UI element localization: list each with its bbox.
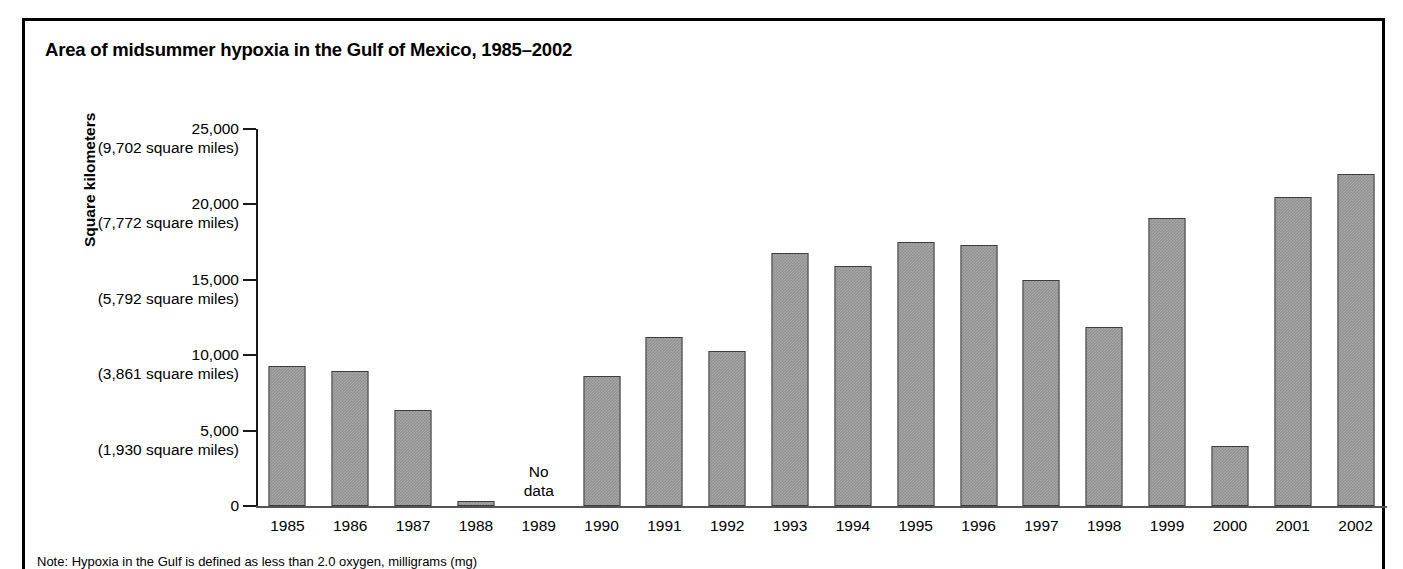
bar-slot bbox=[570, 129, 633, 506]
x-tick-label-2000: 2000 bbox=[1199, 517, 1262, 535]
y-tick-label-km: 15,000 bbox=[98, 270, 239, 289]
x-axis-line bbox=[256, 506, 1387, 508]
bar-slot bbox=[1199, 129, 1262, 506]
bar-1999[interactable] bbox=[1149, 218, 1186, 506]
y-tick-mark bbox=[243, 203, 256, 205]
x-tick-label-1992: 1992 bbox=[696, 517, 759, 535]
y-tick-label: 0 bbox=[230, 496, 239, 515]
bar-1992[interactable] bbox=[709, 351, 746, 506]
bar-1997[interactable] bbox=[1023, 280, 1060, 506]
x-tick-label-1995: 1995 bbox=[884, 517, 947, 535]
x-tick-label-1988: 1988 bbox=[445, 517, 508, 535]
bar-1987[interactable] bbox=[395, 410, 432, 506]
y-tick-label: 10,000(3,861 square miles) bbox=[98, 345, 239, 383]
x-tick-label-1999: 1999 bbox=[1136, 517, 1199, 535]
x-tick-label-2001: 2001 bbox=[1261, 517, 1324, 535]
y-tick-label: 20,000(7,772 square miles) bbox=[98, 194, 239, 232]
y-axis-title: Square kilometers bbox=[81, 113, 99, 247]
y-tick-label-miles: (1,930 square miles) bbox=[98, 440, 239, 459]
bar-2001[interactable] bbox=[1274, 197, 1311, 506]
bar-1995[interactable] bbox=[897, 242, 934, 506]
x-axis-labels: 1985198619871988198919901991199219931994… bbox=[256, 517, 1387, 539]
x-tick-label-1990: 1990 bbox=[570, 517, 633, 535]
x-tick-label-1985: 1985 bbox=[256, 517, 319, 535]
x-tick-label-1997: 1997 bbox=[1010, 517, 1073, 535]
y-tick-label: 5,000(1,930 square miles) bbox=[98, 421, 239, 459]
bar-slot bbox=[696, 129, 759, 506]
x-tick-label-1989: 1989 bbox=[507, 517, 570, 535]
y-tick-label-km: 10,000 bbox=[98, 345, 239, 364]
plot-area: 25,000(9,702 square miles)20,000(7,772 s… bbox=[256, 129, 1387, 506]
no-data-line2: data bbox=[524, 481, 554, 500]
bar-1990[interactable] bbox=[583, 376, 620, 506]
x-tick-label-1993: 1993 bbox=[759, 517, 822, 535]
y-tick-label-miles: (5,792 square miles) bbox=[98, 289, 239, 308]
bar-slot bbox=[822, 129, 885, 506]
y-tick-mark bbox=[243, 279, 256, 281]
bar-1985[interactable] bbox=[269, 366, 306, 506]
bar-slot bbox=[256, 129, 319, 506]
y-tick-label-km: 5,000 bbox=[98, 421, 239, 440]
y-tick-label: 15,000(5,792 square miles) bbox=[98, 270, 239, 308]
bar-slot bbox=[1073, 129, 1136, 506]
y-tick-label-km: 25,000 bbox=[98, 119, 239, 138]
bar-1994[interactable] bbox=[834, 266, 871, 506]
y-tick-label: 25,000(9,702 square miles) bbox=[98, 119, 239, 157]
bar-slot bbox=[884, 129, 947, 506]
no-data-annotation: Nodata bbox=[524, 462, 554, 500]
x-tick-label-1996: 1996 bbox=[947, 517, 1010, 535]
bar-1991[interactable] bbox=[646, 337, 683, 506]
y-tick-label-miles: (7,772 square miles) bbox=[98, 213, 239, 232]
bar-slot bbox=[1261, 129, 1324, 506]
bar-slot bbox=[1324, 129, 1387, 506]
bar-slot bbox=[445, 129, 508, 506]
figure-frame: Area of midsummer hypoxia in the Gulf of… bbox=[22, 18, 1385, 569]
bar-2002[interactable] bbox=[1337, 174, 1374, 506]
y-tick-mark bbox=[243, 354, 256, 356]
x-tick-label-1994: 1994 bbox=[822, 517, 885, 535]
bar-1998[interactable] bbox=[1086, 327, 1123, 506]
bar-slot bbox=[759, 129, 822, 506]
bar-series: Nodata bbox=[256, 129, 1387, 506]
bar-1996[interactable] bbox=[960, 245, 997, 506]
bar-slot bbox=[1010, 129, 1073, 506]
bar-slot: Nodata bbox=[507, 129, 570, 506]
x-tick-label-1987: 1987 bbox=[382, 517, 445, 535]
bar-1988[interactable] bbox=[457, 501, 494, 506]
x-tick-label-1991: 1991 bbox=[633, 517, 696, 535]
bar-1986[interactable] bbox=[332, 371, 369, 506]
bar-2000[interactable] bbox=[1211, 446, 1248, 506]
bar-slot bbox=[947, 129, 1010, 506]
y-tick-label-km: 20,000 bbox=[98, 194, 239, 213]
x-tick-label-1998: 1998 bbox=[1073, 517, 1136, 535]
y-tick-mark bbox=[243, 505, 256, 507]
x-tick-label-2002: 2002 bbox=[1324, 517, 1387, 535]
bar-slot bbox=[1136, 129, 1199, 506]
bar-slot bbox=[382, 129, 445, 506]
bar-slot bbox=[633, 129, 696, 506]
x-tick-label-1986: 1986 bbox=[319, 517, 382, 535]
y-tick-mark bbox=[243, 128, 256, 130]
bar-1993[interactable] bbox=[772, 253, 809, 506]
y-tick-label-miles: (3,861 square miles) bbox=[98, 364, 239, 383]
bar-slot bbox=[319, 129, 382, 506]
chart-note: Note: Hypoxia in the Gulf is defined as … bbox=[37, 554, 477, 569]
page-title: Area of midsummer hypoxia in the Gulf of… bbox=[45, 39, 572, 61]
y-tick-label-miles: (9,702 square miles) bbox=[98, 138, 239, 157]
no-data-line1: No bbox=[524, 462, 554, 481]
y-tick-label-km: 0 bbox=[230, 496, 239, 515]
y-tick-mark bbox=[243, 430, 256, 432]
